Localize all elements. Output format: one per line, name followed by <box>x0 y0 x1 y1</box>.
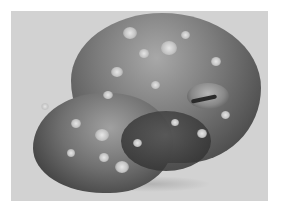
nodule <box>211 57 221 66</box>
nodule <box>197 129 207 138</box>
nodule <box>103 91 113 99</box>
nodule <box>115 161 129 173</box>
nodule <box>111 67 123 77</box>
nodule <box>133 139 142 147</box>
nodule <box>221 111 230 119</box>
nodule <box>67 149 75 157</box>
nodule <box>161 41 177 55</box>
nodule <box>41 103 49 110</box>
nodule <box>139 49 149 58</box>
specimen-photo <box>11 11 268 201</box>
figure-caption <box>10 213 272 220</box>
nodule <box>95 129 109 141</box>
nodule <box>99 153 109 162</box>
nodule <box>151 81 160 89</box>
nodule <box>181 31 190 39</box>
nodule <box>123 27 137 39</box>
nodule <box>171 119 179 126</box>
nodule <box>71 119 81 128</box>
